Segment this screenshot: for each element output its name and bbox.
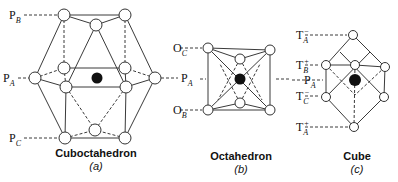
label-pc-cubo: PC [9,132,21,144]
caption-octahedron: Octahedron (b) [181,150,301,175]
label-ta-plus-cube: TA+ [296,121,309,133]
label-pb-cubo: PB [9,9,21,21]
cuboctahedron-center-atom [92,73,103,84]
label-pa-cube: PA [304,74,316,86]
label-oc-octa: OC [173,42,187,54]
label-ob-octa: OB [173,104,187,116]
caption-cube: Cube (c) [297,150,398,175]
label-pa-cubo: PA [3,72,15,84]
label-tb-plus-cube: TB+ [296,59,309,71]
octahedron-center-atom [235,74,246,85]
cube-center-atom [349,74,361,86]
label-tc-minus-cube: TC− [296,90,309,102]
caption-cuboctahedron: Cuboctahedron (a) [36,147,156,172]
label-pa-octa: PA [181,72,193,84]
label-ta-minus-cube: TA− [296,29,309,41]
